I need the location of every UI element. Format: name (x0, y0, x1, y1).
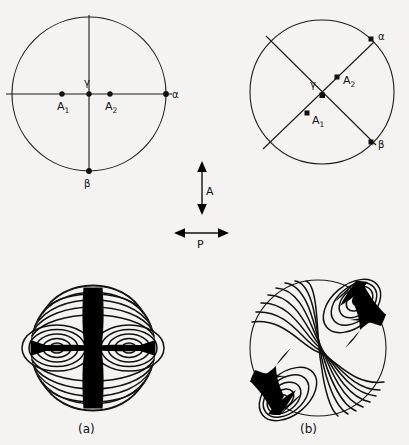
label-beta: β (378, 139, 384, 150)
point-a2-dot (335, 75, 340, 80)
label-alpha: α (172, 89, 179, 100)
caption-b: (b) (300, 422, 317, 436)
conoscopic-interference-figure: A1 γ A2 α β α A2 γ A1 β A P (0, 0, 409, 445)
point-beta-dot (86, 168, 92, 174)
polarizer-label: P (197, 238, 204, 251)
label-gamma: γ (310, 79, 316, 90)
point-a1-dot (305, 111, 310, 116)
point-gamma-dot (86, 91, 91, 96)
analyser-label: A (206, 185, 214, 198)
point-beta-dot (369, 140, 374, 145)
point-a2-dot (107, 91, 112, 96)
point-alpha-dot (163, 91, 169, 97)
label-beta: β (84, 178, 90, 189)
point-a1-dot (59, 91, 64, 96)
label-gamma: γ (84, 77, 90, 88)
caption-a: (a) (78, 422, 95, 436)
point-alpha-dot (369, 37, 374, 42)
point-gamma-dot (320, 93, 326, 99)
label-alpha: α (378, 31, 385, 42)
